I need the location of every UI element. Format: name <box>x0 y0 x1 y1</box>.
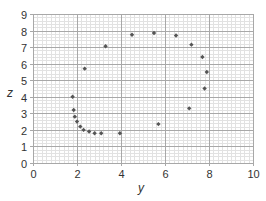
scatter-chart: 0246810 0123456789 y z <box>0 0 266 201</box>
y-tick-label: 9 <box>21 9 27 21</box>
y-tick-label: 0 <box>21 158 27 170</box>
data-point-marker <box>72 108 76 112</box>
minor-grid <box>33 14 254 164</box>
x-tick-label: 4 <box>118 168 124 180</box>
x-tick-label: 10 <box>247 168 259 180</box>
y-tick-label: 5 <box>21 75 27 87</box>
data-point-marker <box>92 131 96 135</box>
data-point-marker <box>81 128 85 132</box>
data-point-marker <box>70 95 74 99</box>
y-axis-label: z <box>6 86 13 100</box>
x-tick-label: 6 <box>162 168 168 180</box>
y-tick-label: 2 <box>21 125 27 137</box>
y-tick-label: 7 <box>21 42 27 54</box>
x-axis-tick-labels: 0246810 <box>30 168 259 180</box>
x-tick-label: 2 <box>74 168 80 180</box>
x-tick-label: 8 <box>206 168 212 180</box>
x-tick-label: 0 <box>30 168 36 180</box>
data-point-marker <box>189 42 193 46</box>
y-tick-label: 1 <box>21 141 27 153</box>
y-tick-label: 8 <box>21 26 27 38</box>
y-tick-label: 4 <box>21 92 27 104</box>
y-tick-label: 3 <box>21 108 27 120</box>
y-axis-tick-labels: 0123456789 <box>21 9 27 170</box>
x-axis-label: y <box>137 181 145 195</box>
y-tick-label: 6 <box>21 59 27 71</box>
